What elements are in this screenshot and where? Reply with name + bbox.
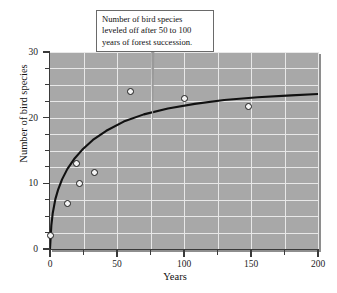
data-point-marker (76, 180, 83, 187)
callout-line-3: years of forest succession. (102, 37, 209, 48)
x-axis-tick-label: 150 (234, 259, 268, 269)
x-axis-major-tick (317, 250, 318, 257)
data-point-marker (64, 200, 71, 207)
x-axis-minor-tick (83, 250, 84, 255)
gridline-vertical (318, 52, 319, 249)
x-axis-tick-label: 200 (301, 259, 335, 269)
x-axis-minor-tick (150, 250, 151, 255)
x-axis-tick-label: 100 (167, 259, 201, 269)
fitted-curve (50, 52, 318, 249)
y-axis-tick-label: 20 (12, 113, 38, 123)
data-point-marker (47, 232, 54, 239)
x-axis-major-tick (116, 250, 117, 257)
y-axis-major-tick (43, 51, 50, 52)
data-point-marker (245, 103, 252, 110)
x-axis-major-tick (183, 250, 184, 257)
callout-line-2: leveled off after 50 to 100 (102, 25, 209, 36)
y-axis-tick-label: 10 (12, 178, 38, 188)
x-axis-major-tick (250, 250, 251, 257)
x-axis-tick-label: 0 (33, 259, 67, 269)
y-axis-tick-label: 0 (12, 244, 38, 254)
data-point-marker (181, 95, 188, 102)
data-point-marker (91, 169, 98, 176)
callout-box: Number of bird species leveled off after… (96, 10, 214, 52)
y-axis-tick-label: 30 (12, 47, 38, 57)
x-axis-title: Years (120, 271, 230, 282)
data-point-marker (127, 88, 134, 95)
x-axis-minor-tick (284, 250, 285, 255)
y-axis-major-tick (43, 117, 50, 118)
plot-area (50, 52, 318, 249)
x-axis-tick-label: 50 (100, 259, 134, 269)
x-axis-minor-tick (217, 250, 218, 255)
bird-species-succession-chart: Number of bird species Years Number of b… (0, 0, 337, 293)
callout-leader-line (146, 51, 160, 121)
callout-line-1: Number of bird species (102, 14, 209, 25)
y-axis-major-tick (43, 183, 50, 184)
x-axis-major-tick (49, 250, 50, 257)
